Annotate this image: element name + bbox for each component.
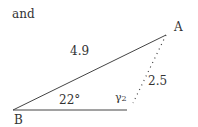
gamma-symbol: γ	[115, 91, 122, 104]
vertex-a-label: A	[174, 21, 183, 33]
angle-gamma-label: γ2	[115, 92, 127, 103]
angle-b-value: 22°	[59, 94, 80, 106]
side-ba-line	[13, 35, 166, 110]
side-ba-value: 4.9	[70, 45, 89, 57]
dotted-side-value: 2.5	[148, 75, 167, 87]
dotted-side-line	[133, 35, 166, 103]
triangle-figure	[0, 0, 198, 127]
gamma-subscript: 2	[122, 94, 127, 103]
vertex-b-label: B	[14, 114, 23, 126]
